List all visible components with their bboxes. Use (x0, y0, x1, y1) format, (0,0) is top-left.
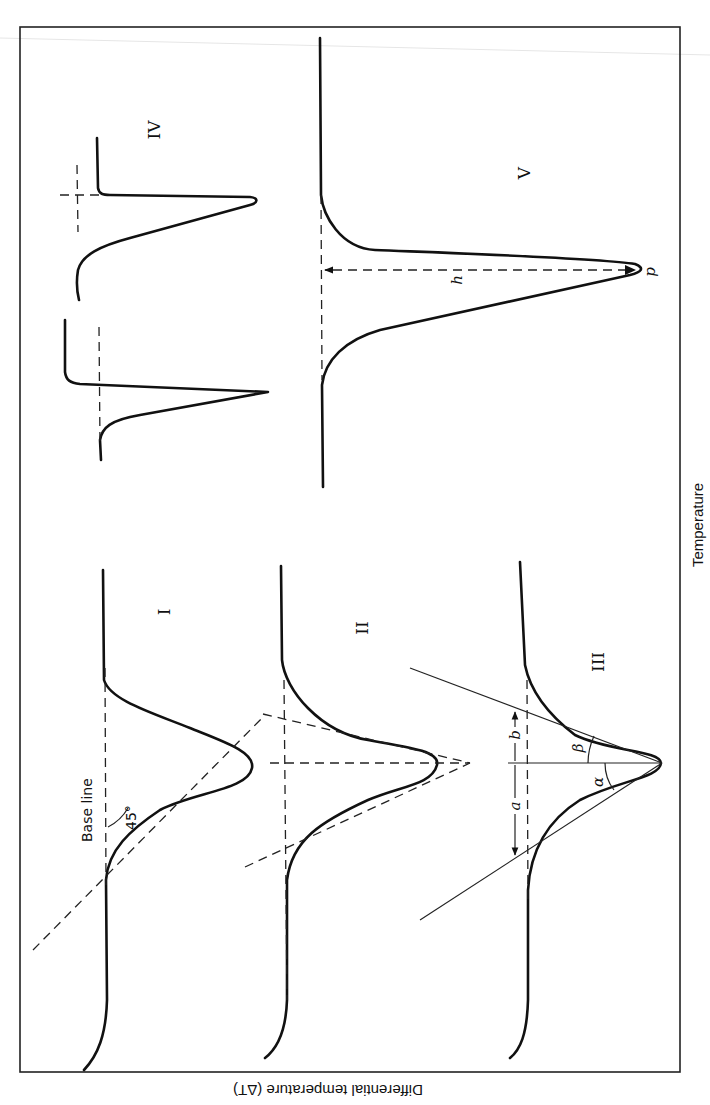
scan-artifact-line (0, 38, 710, 55)
curve-II-baseline (284, 680, 287, 1000)
x-axis-label: Temperature (689, 483, 706, 567)
angle-45-label: 45° (123, 805, 139, 830)
curve-III: b a β α III (410, 562, 662, 1058)
curve-IV-trace-lower (65, 320, 268, 460)
label-h: h (448, 275, 466, 285)
curve-label-III: III (588, 652, 608, 672)
plot-frame (20, 27, 680, 1072)
curve-IV: IV (60, 120, 268, 460)
curve-II-tangent-right (245, 763, 470, 867)
curve-I-45deg-tangent (33, 715, 265, 950)
y-axis-label: Differential temperature (ΔT) (233, 1082, 423, 1099)
curve-IV-upper-baseline (77, 165, 78, 232)
curve-label-I: I (154, 609, 174, 616)
label-b: b (506, 730, 524, 740)
curve-I-trace (84, 570, 252, 1070)
base-line-label: Base line (79, 778, 95, 842)
curve-label-V: V (514, 166, 534, 180)
curve-V-trace (320, 38, 641, 487)
curve-III-tangent-alpha (420, 763, 662, 920)
dta-peak-diagram: Base line 45° I II b a β α III (0, 0, 710, 1105)
label-alpha: α (589, 777, 607, 787)
curve-V-baseline (321, 195, 322, 380)
curve-III-baseline (527, 680, 528, 905)
curve-III-trace (510, 562, 661, 1058)
curve-II: II (245, 566, 470, 1058)
curve-IV-trace-upper (77, 138, 256, 300)
label-beta: β (569, 743, 587, 753)
curve-II-trace (265, 566, 437, 1058)
curve-label-IV: IV (144, 120, 164, 140)
label-a: a (506, 802, 524, 811)
label-p: p (641, 267, 659, 277)
curve-label-II: II (352, 621, 372, 634)
curve-V: h p V (320, 38, 659, 487)
curve-I-baseline (105, 668, 106, 885)
curve-I: Base line 45° I (33, 570, 265, 1070)
curve-III-tangent-beta (410, 668, 662, 763)
curve-II-tangent-left (263, 714, 470, 763)
